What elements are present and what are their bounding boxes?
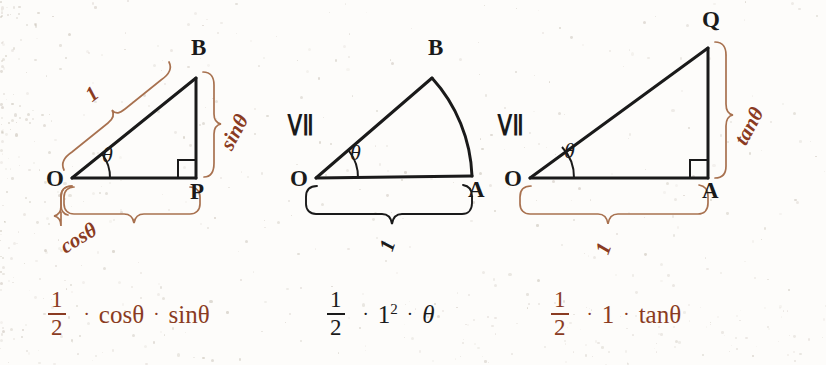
multiplication-dot-1: · xyxy=(587,304,593,323)
term-cos-theta: cosθ xyxy=(99,302,144,327)
triangle-outer-graphic xyxy=(490,0,826,280)
multiplication-dot-1: · xyxy=(363,304,369,323)
fraction-denominator: 2 xyxy=(327,313,345,340)
term-one: 1 xyxy=(602,302,615,327)
formula-area-inner-triangle: 1 2 · cosθ · sinθ xyxy=(48,288,210,341)
multiplication-dot-2: · xyxy=(407,304,413,323)
brace-hypotenuse xyxy=(63,62,171,170)
multiplication-dot-1: · xyxy=(84,304,90,323)
radius-exponent: 2 xyxy=(390,301,398,317)
brace-radius xyxy=(306,185,472,224)
fraction-one-half: 1 2 xyxy=(551,288,569,341)
angle-label-theta: θ xyxy=(564,140,575,162)
sector-graphic xyxy=(280,0,510,280)
diagram-canvas: O B P θ 1 sinθ cosθ ≦ O B A θ 1 xyxy=(0,0,826,365)
right-angle-mark xyxy=(690,160,708,178)
vertex-label-A: A xyxy=(468,178,485,201)
fraction-denominator: 2 xyxy=(551,313,569,340)
fraction-numerator: 1 xyxy=(551,288,569,313)
fraction-one-half: 1 2 xyxy=(327,288,345,341)
vertex-label-O: O xyxy=(504,167,522,190)
angle-label-theta: θ xyxy=(350,142,361,164)
vertex-label-O: O xyxy=(290,167,308,190)
brace-opposite xyxy=(203,72,221,177)
term-tan-theta: tanθ xyxy=(639,302,682,327)
fraction-denominator: 2 xyxy=(48,313,66,340)
vertex-label-P: P xyxy=(190,180,204,203)
formula-area-sector: 1 2 · 12 · θ xyxy=(327,288,434,341)
vertex-label-B: B xyxy=(428,36,443,59)
multiplication-dot-2: · xyxy=(153,304,159,323)
vertex-label-O: O xyxy=(46,167,64,190)
panel-triangle-outer: O Q A θ tanθ 1 xyxy=(490,0,826,280)
multiplication-dot-2: · xyxy=(623,304,629,323)
panel-circular-sector: O B A θ 1 xyxy=(280,0,510,280)
brace-adjacent xyxy=(54,186,72,226)
term-radius-squared: 12 xyxy=(378,302,398,327)
right-angle-mark xyxy=(178,160,196,178)
radius-base: 1 xyxy=(378,301,391,328)
vertex-label-B: B xyxy=(191,36,206,59)
panel-triangle-inner: O B P θ 1 sinθ cosθ xyxy=(0,0,280,280)
term-theta: θ xyxy=(422,302,434,327)
vertex-label-Q: Q xyxy=(702,8,720,31)
formula-area-outer-triangle: 1 2 · 1 · tanθ xyxy=(551,288,681,341)
angle-label-theta: θ xyxy=(102,144,113,166)
vertex-label-A: A xyxy=(702,179,719,202)
fraction-numerator: 1 xyxy=(327,288,345,313)
brace-adjacent-body xyxy=(64,187,200,223)
brace-tangent xyxy=(715,42,733,178)
term-sin-theta: sinθ xyxy=(168,302,209,327)
fraction-one-half: 1 2 xyxy=(48,288,66,341)
brace-base xyxy=(520,185,708,224)
fraction-numerator: 1 xyxy=(48,288,66,313)
